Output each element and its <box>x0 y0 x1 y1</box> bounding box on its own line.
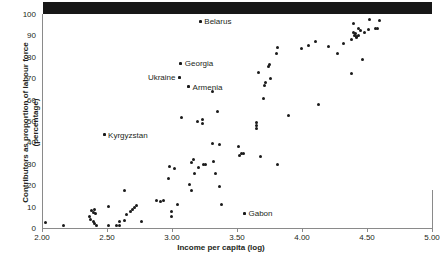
data-point <box>276 46 279 49</box>
point-label-gabon: Gabon <box>249 209 273 218</box>
data-point <box>342 42 345 45</box>
data-point <box>367 28 370 31</box>
data-point <box>212 160 215 163</box>
x-tick-label: 3.00 <box>164 233 180 242</box>
data-point-labeled <box>179 62 182 65</box>
data-point <box>94 212 97 215</box>
data-point-labeled <box>178 76 181 79</box>
data-point <box>155 199 158 202</box>
data-point <box>307 44 310 47</box>
x-tick-label: 5.00 <box>424 233 440 242</box>
point-label-kyrgyzstan: Kyrgyzstan <box>108 130 148 139</box>
y-tick-label: 10 <box>12 202 36 211</box>
point-label-georgia: Georgia <box>185 59 213 68</box>
data-point <box>350 72 353 75</box>
x-axis-title: Income per capita (log) <box>0 243 442 252</box>
data-point <box>259 155 262 158</box>
x-tick-mark <box>432 229 433 232</box>
data-point <box>140 220 143 223</box>
data-point <box>192 158 195 161</box>
y-tick-label: 0 <box>12 224 36 233</box>
plot-right-border <box>432 190 433 228</box>
y-tick-label: 90 <box>12 31 36 40</box>
data-point-labeled <box>103 133 106 136</box>
x-tick-label: 4.00 <box>294 233 310 242</box>
data-point <box>352 22 355 25</box>
x-tick-label: 4.50 <box>359 233 375 242</box>
data-point <box>93 208 96 211</box>
data-point <box>173 167 176 170</box>
data-point <box>118 220 121 223</box>
data-point <box>201 118 204 121</box>
data-point <box>125 213 128 216</box>
data-point-labeled <box>199 20 202 23</box>
y-tick-label: 40 <box>12 138 36 147</box>
data-point <box>190 189 193 192</box>
data-point <box>264 81 267 84</box>
x-tick-label: 2.50 <box>99 233 115 242</box>
y-tick-label: 70 <box>12 74 36 83</box>
y-tick-label: 20 <box>12 181 36 190</box>
data-point <box>327 45 330 48</box>
data-point <box>378 19 381 22</box>
data-point <box>123 189 126 192</box>
data-point <box>204 163 207 166</box>
data-point <box>276 163 279 166</box>
x-tick-mark <box>172 229 173 232</box>
data-point <box>44 221 47 224</box>
x-tick-mark <box>107 229 108 232</box>
data-point <box>170 215 173 218</box>
data-point <box>62 224 65 227</box>
data-point <box>167 177 170 180</box>
data-point <box>275 52 278 55</box>
data-point <box>237 145 240 148</box>
data-point <box>218 185 221 188</box>
data-point <box>269 77 272 80</box>
data-point <box>218 143 221 146</box>
point-label-armenia: Armenia <box>193 82 223 91</box>
data-point <box>368 18 371 21</box>
data-point <box>197 166 200 169</box>
data-point <box>107 205 110 208</box>
data-point-labeled <box>243 212 246 215</box>
data-point <box>314 40 317 43</box>
data-point <box>176 203 179 206</box>
data-point-labeled <box>187 85 190 88</box>
data-point <box>262 97 265 100</box>
data-point <box>95 224 98 227</box>
x-tick-mark <box>237 229 238 232</box>
data-point <box>376 27 379 30</box>
data-point <box>363 31 366 34</box>
data-point <box>123 219 126 222</box>
data-point <box>242 152 245 155</box>
y-tick-label: 30 <box>12 159 36 168</box>
scatter-chart-figure: Contributors as proportion of labour for… <box>0 0 442 255</box>
data-point <box>162 199 165 202</box>
data-point <box>170 210 173 213</box>
x-tick-mark <box>42 229 43 232</box>
data-point <box>211 142 214 145</box>
data-point <box>201 122 204 125</box>
data-point <box>300 47 303 50</box>
x-tick-label: 3.50 <box>229 233 245 242</box>
data-point <box>257 71 260 74</box>
data-point <box>357 34 360 37</box>
data-point <box>359 29 362 32</box>
data-point <box>188 183 191 186</box>
data-point <box>238 154 241 157</box>
data-point <box>287 114 290 117</box>
data-point <box>107 224 110 227</box>
data-point <box>361 58 364 61</box>
data-point <box>220 203 223 206</box>
data-point <box>350 38 353 41</box>
x-tick-label: 2.00 <box>34 233 50 242</box>
point-label-belarus: Belarus <box>204 17 231 26</box>
plot-area: BelarusGeorgiaUkraineArmeniaKyrgyzstanGa… <box>42 14 433 229</box>
y-tick-label: 100 <box>12 10 36 19</box>
data-point <box>336 52 339 55</box>
data-point <box>255 127 258 130</box>
x-tick-mark <box>367 229 368 232</box>
data-point <box>193 172 196 175</box>
data-point <box>190 161 193 164</box>
data-point <box>214 172 217 175</box>
